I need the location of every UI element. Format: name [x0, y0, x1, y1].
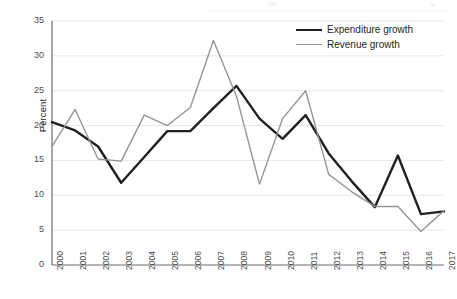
x-tick-label: 2013 [356, 251, 365, 270]
x-tick-label: 2011 [310, 252, 319, 270]
legend-item-expenditure-growth: Expenditure growth [296, 22, 446, 37]
legend-item-revenue-growth: Revenue growth [296, 37, 446, 52]
x-tick-label: 2001 [79, 251, 88, 270]
gridline-group [52, 21, 444, 230]
x-tick-label: 2012 [333, 251, 342, 270]
x-tick-label: 2014 [379, 251, 388, 270]
x-tick-label: 2002 [102, 251, 111, 270]
series-group [52, 41, 444, 232]
legend-label-revenue: Revenue growth [327, 39, 400, 50]
x-tick-label: 2009 [264, 251, 273, 270]
series-line-revenue-growth [52, 41, 444, 232]
x-tick-label: 2017 [448, 251, 457, 270]
x-tick-label: 2006 [194, 251, 203, 270]
x-tick-label: 2003 [125, 251, 134, 270]
x-tick-label: 2008 [240, 251, 249, 270]
legend-line-swatch-expenditure [296, 29, 322, 31]
legend-line-swatch-revenue [296, 44, 322, 45]
x-tick-label: 2015 [402, 251, 411, 270]
x-tick-label: 2000 [56, 251, 65, 270]
x-tick-label: 2016 [425, 251, 434, 270]
chart-legend: Expenditure growth Revenue growth [296, 22, 446, 52]
x-tick-label: 2004 [148, 251, 157, 270]
x-tick-label: 2005 [171, 251, 180, 270]
x-tick-label: 2007 [217, 251, 226, 270]
axis-lines [52, 21, 444, 265]
x-tick-label: 2010 [287, 251, 296, 270]
legend-label-expenditure: Expenditure growth [327, 24, 413, 35]
